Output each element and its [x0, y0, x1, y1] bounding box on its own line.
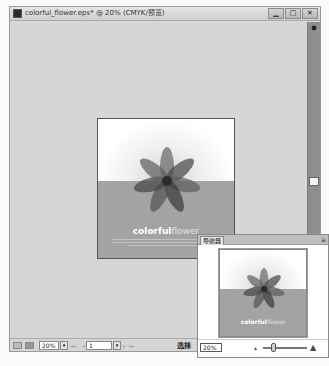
- navigator-panel: 导航器 ≡ colorfulflower 20% ▴ ▲ ···: [197, 234, 329, 358]
- flower-center: [162, 176, 172, 186]
- app-icon: [13, 9, 22, 18]
- first-artboard-button[interactable]: ◂◂: [70, 342, 76, 349]
- artboard-number-field[interactable]: 1: [86, 341, 112, 350]
- artboard-dropdown-icon[interactable]: ▾: [113, 341, 121, 350]
- artboard-icon[interactable]: [25, 342, 34, 349]
- zoom-in-icon[interactable]: ▲: [310, 343, 316, 352]
- scroll-up-icon[interactable]: [312, 26, 317, 31]
- close-button[interactable]: ✕: [302, 8, 318, 19]
- zoom-slider-thumb[interactable]: [271, 343, 276, 352]
- last-artboard-button[interactable]: ▸▸: [129, 342, 135, 349]
- navigator-footer: 20% ▴ ▲ ···: [198, 339, 328, 357]
- scrollbar-thumb[interactable]: [309, 177, 319, 186]
- tab-navigator[interactable]: 导航器: [200, 236, 224, 245]
- navigator-header[interactable]: 导航器 ≡: [198, 235, 328, 245]
- navigator-zoom-field[interactable]: 20%: [200, 343, 222, 352]
- view-box[interactable]: [218, 248, 308, 338]
- screen-mode-icon[interactable]: [13, 342, 22, 349]
- window-controls: ▁ □ ✕: [268, 8, 318, 19]
- title-bar[interactable]: colorful_flower.eps* @ 20% (CMYK/预览) ▁ □…: [10, 7, 320, 21]
- prev-artboard-button[interactable]: ◂: [82, 342, 85, 349]
- panel-menu-icon[interactable]: ≡: [321, 236, 326, 244]
- zoom-dropdown-icon[interactable]: ▾: [60, 341, 68, 350]
- current-tool-label[interactable]: 选择: [177, 340, 191, 350]
- minimize-button[interactable]: ▁: [268, 8, 284, 19]
- next-artboard-button[interactable]: ▸: [123, 342, 126, 349]
- resize-grip-icon[interactable]: ···: [258, 353, 266, 359]
- zoom-field[interactable]: 20%: [39, 341, 59, 350]
- maximize-button[interactable]: □: [285, 8, 301, 19]
- zoom-out-icon[interactable]: ▴: [254, 344, 257, 351]
- zoom-slider[interactable]: [263, 347, 307, 349]
- window-title: colorful_flower.eps* @ 20% (CMYK/预览): [25, 8, 165, 19]
